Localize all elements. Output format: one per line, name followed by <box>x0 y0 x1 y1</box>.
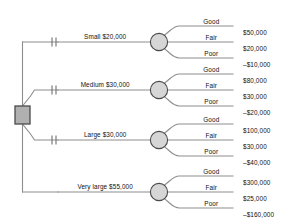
branch-label-1: Medium $30,000 <box>81 81 130 88</box>
outcome-label-0-2: Poor <box>204 50 218 57</box>
outcome-line-2-0 <box>164 124 233 133</box>
outcome-value-0-2: –$10,000 <box>243 60 270 67</box>
outcome-value-1-1: $30,000 <box>243 92 267 99</box>
outcome-label-1-2: Poor <box>204 98 218 105</box>
outcome-label-3-1: Fair <box>206 184 217 191</box>
decision-square-node[interactable] <box>15 106 30 124</box>
outcome-value-0-0: $50,000 <box>243 28 267 35</box>
outcome-value-2-1: $30,000 <box>243 142 267 149</box>
branch-connector-2 <box>23 124 59 140</box>
outcome-label-0-0: Good <box>203 18 219 25</box>
outcome-value-0-1: $20,000 <box>243 44 267 51</box>
branch-label-3: Very large $55,000 <box>77 183 132 190</box>
chance-node-2[interactable] <box>150 131 167 148</box>
outcome-value-3-1: $25,000 <box>243 194 267 201</box>
outcome-line-3-0 <box>164 176 233 185</box>
branch-connector-1 <box>23 90 59 106</box>
outcome-label-1-1: Fair <box>206 82 217 89</box>
branch-label-2: Large $30,000 <box>84 131 127 138</box>
outcome-line-0-2 <box>164 49 233 58</box>
branch-label-0: Small $20,000 <box>84 33 126 40</box>
outcome-value-2-0: $100,000 <box>243 126 270 133</box>
outcome-value-1-0: $80,000 <box>243 76 267 83</box>
outcome-line-0-0 <box>164 26 233 35</box>
outcome-label-2-0: Good <box>203 116 219 123</box>
outcome-line-1-2 <box>164 97 233 106</box>
outcome-label-1-0: Good <box>203 66 219 73</box>
outcome-label-0-1: Fair <box>206 34 217 41</box>
chance-node-3[interactable] <box>150 183 167 200</box>
outcome-value-3-0: $300,000 <box>243 178 270 185</box>
outcome-value-2-2: –$40,000 <box>243 158 270 165</box>
decision-tree-diagram: Small $20,000Good$50,000Fair$20,000Poor–… <box>0 0 295 220</box>
outcome-line-2-2 <box>164 147 233 156</box>
outcome-line-3-2 <box>164 199 233 208</box>
outcome-label-2-1: Fair <box>206 132 217 139</box>
outcome-value-1-2: –$20,000 <box>243 108 270 115</box>
outcome-label-3-2: Poor <box>204 200 218 207</box>
outcome-label-2-2: Poor <box>204 148 218 155</box>
outcome-label-3-0: Good <box>203 168 219 175</box>
chance-node-1[interactable] <box>150 81 167 98</box>
outcome-value-3-2: –$160,000 <box>243 210 274 217</box>
chance-node-0[interactable] <box>150 33 167 50</box>
outcome-line-1-0 <box>164 74 233 83</box>
